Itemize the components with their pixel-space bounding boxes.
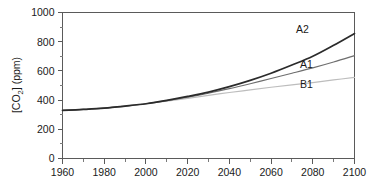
x-tick-label: 2060 xyxy=(259,166,283,178)
y-axis-ticks xyxy=(58,13,63,159)
y-tick-label: 0 xyxy=(49,152,55,164)
x-tick-label: 1980 xyxy=(93,166,117,178)
y-tick-label: 200 xyxy=(37,123,55,135)
series-label-a2: A2 xyxy=(296,23,309,35)
x-tick-label: 2080 xyxy=(301,166,325,178)
y-tick-label: 600 xyxy=(37,65,55,77)
y-axis-title: [CO2] (ppm) xyxy=(10,57,25,113)
x-tick-label: 2000 xyxy=(134,166,158,178)
series-label-a1: A1 xyxy=(300,58,313,70)
y-tick-label: 1000 xyxy=(31,6,55,18)
x-tick-label: 2100 xyxy=(343,166,367,178)
x-axis-ticks xyxy=(63,159,355,164)
x-tick-label: 1960 xyxy=(51,166,75,178)
y-axis-tick-labels: 02004006008001000 xyxy=(31,6,55,164)
series-line-a2 xyxy=(63,34,355,111)
series-label-b1: B1 xyxy=(300,78,313,90)
chart-canvas: 02004006008001000 1960198020002020204020… xyxy=(0,0,377,190)
y-tick-label: 400 xyxy=(37,94,55,106)
x-tick-label: 2020 xyxy=(176,166,200,178)
y-tick-label: 800 xyxy=(37,36,55,48)
x-tick-label: 2040 xyxy=(218,166,242,178)
x-axis-tick-labels: 19601980200020202040206020802100 xyxy=(51,166,367,178)
data-series-group xyxy=(63,34,355,111)
co2-projection-figure: 02004006008001000 1960198020002020204020… xyxy=(0,0,377,190)
